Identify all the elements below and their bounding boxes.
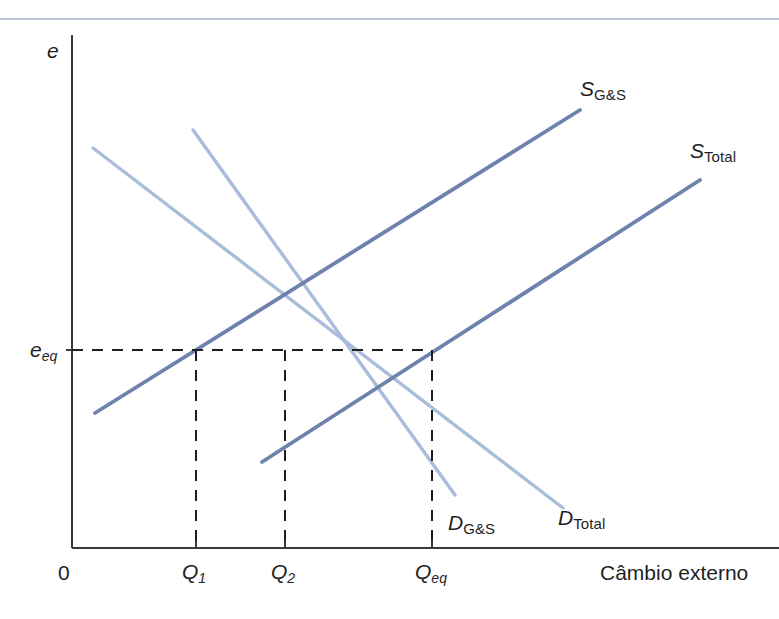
- curve-label-s-gs-base: S: [580, 77, 594, 100]
- tick-label-qeq-subscript: eq: [431, 570, 447, 586]
- curve-label-s-total-base: S: [690, 139, 704, 162]
- curve-label-s-gs-subscript: G&S: [594, 86, 626, 103]
- curve-label-d-total-subscript: Total: [573, 515, 605, 532]
- eeq-base: e: [30, 338, 42, 361]
- tick-label-q1-base: Q: [182, 560, 198, 583]
- curve-label-d-gs: DG&S: [448, 512, 495, 533]
- eeq-subscript: eq: [42, 348, 58, 364]
- eeq-axis-label: eeq: [30, 339, 57, 360]
- curve-s-total: [262, 180, 700, 462]
- x-axis-title: Câmbio externo: [600, 562, 748, 583]
- curve-s-gs: [95, 110, 580, 413]
- curve-label-s-total-subscript: Total: [704, 148, 736, 165]
- chart-plot-area: [0, 0, 779, 619]
- tick-label-q2-base: Q: [271, 560, 287, 583]
- tick-label-qeq-base: Q: [415, 560, 431, 583]
- tick-label-q2-subscript: 2: [287, 570, 295, 586]
- figure-canvas: e eeq 0 Q1 Q2 Qeq Câmbio externo SG&S ST…: [0, 0, 779, 619]
- y-axis-label: e: [47, 40, 59, 61]
- tick-label-q2: Q2: [271, 561, 295, 582]
- curve-label-d-gs-base: D: [448, 511, 463, 534]
- tick-label-q1-subscript: 1: [198, 570, 206, 586]
- curve-label-d-total-base: D: [558, 506, 573, 529]
- curve-d-gs: [193, 130, 455, 495]
- curve-label-s-gs: SG&S: [580, 78, 626, 99]
- tick-label-q1: Q1: [182, 561, 206, 582]
- curve-label-d-total: DTotal: [558, 507, 605, 528]
- curve-label-s-total: STotal: [690, 140, 736, 161]
- curve-label-d-gs-subscript: G&S: [463, 520, 495, 537]
- curve-d-total: [93, 148, 563, 508]
- tick-label-qeq: Qeq: [415, 561, 447, 582]
- origin-label: 0: [58, 562, 70, 583]
